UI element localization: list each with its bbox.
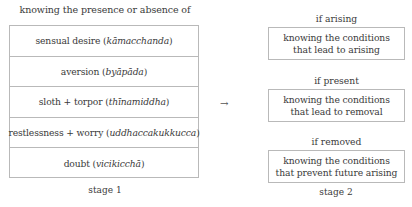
condition-text-line1: knowing the conditions (283, 155, 390, 167)
right-arrow-icon: → (220, 98, 228, 109)
stage2-caption: stage 2 (300, 187, 372, 197)
condition-text-line2: that lead to removal (290, 106, 382, 118)
hindrance-label: doubt (64, 158, 90, 169)
condition-text-line2: that lead to arising (293, 44, 380, 56)
hindrance-label: sensual desire (36, 35, 101, 46)
condition-box-present: knowing the conditions that lead to remo… (268, 89, 405, 122)
hindrance-label: aversion (61, 66, 99, 77)
hindrance-pali: byāpāda (105, 66, 143, 77)
condition-text-line1: knowing the conditions (283, 32, 390, 44)
hindrance-pali: thīnamiddha (109, 96, 166, 107)
hindrance-label: restlessness + worry (8, 127, 103, 138)
condition-heading-present: if present (268, 75, 405, 86)
condition-heading-removed: if removed (268, 136, 405, 147)
condition-text-line2: that prevent future arising (276, 167, 398, 179)
condition-heading-arising: if arising (268, 13, 405, 24)
condition-box-arising: knowing the conditions that lead to aris… (268, 27, 405, 60)
hindrance-pali: uddhaccakukkucca (109, 127, 196, 138)
condition-text-line1: knowing the conditions (283, 94, 390, 106)
hindrance-label: sloth + torpor (39, 96, 103, 107)
hindrance-row-aversion: aversion (byāpāda) (10, 57, 198, 88)
hindrance-row-restlessness-worry: restlessness + worry (uddhaccakukkucca) (10, 118, 198, 149)
condition-box-removed: knowing the conditions that prevent futu… (268, 150, 405, 183)
hindrance-pali: kāmacchanda (106, 35, 169, 46)
hindrance-pali: vicikicchā (96, 158, 141, 169)
hindrance-row-doubt: doubt (vicikicchā) (10, 148, 198, 179)
hindrance-row-sensual-desire: sensual desire (kāmacchanda) (10, 26, 198, 57)
stage1-caption: stage 1 (70, 185, 140, 195)
stage1-title: knowing the presence or absence of (0, 4, 210, 15)
hindrances-table: sensual desire (kāmacchanda) aversion (b… (9, 25, 199, 178)
hindrance-row-sloth-torpor: sloth + torpor (thīnamiddha) (10, 87, 198, 118)
